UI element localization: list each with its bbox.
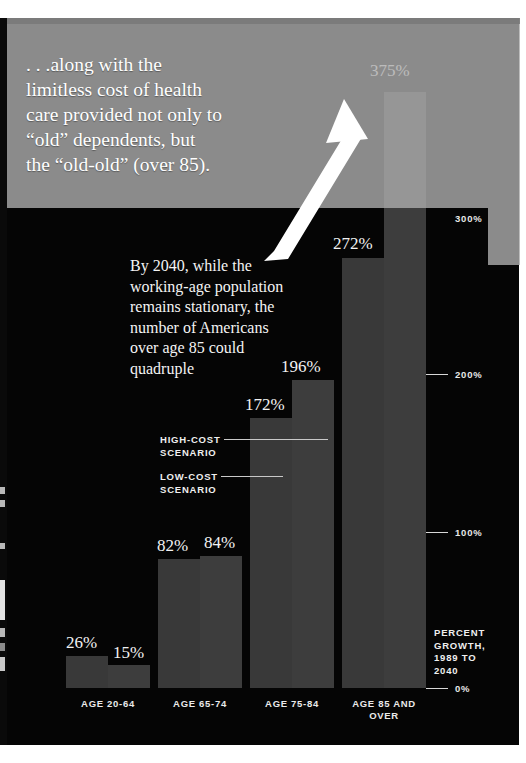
legend-low-cost-label: LOW-COST SCENARIO <box>160 471 218 496</box>
age-75-84-high <box>292 380 334 688</box>
axis-tick-0-line <box>426 688 448 689</box>
value-84: 84% <box>204 534 235 551</box>
overlay-top-band <box>7 18 520 24</box>
age-20-64-high <box>108 665 150 688</box>
legend-low-cost-leader <box>221 476 283 477</box>
cat-age-85-over: AGE 85 AND OVER <box>334 698 434 722</box>
chart-annotation: By 2040, while the working-age populatio… <box>130 256 345 379</box>
axis-tick-100: 100% <box>455 527 483 538</box>
value-15: 15% <box>113 644 144 661</box>
age-65-74-high <box>200 556 242 688</box>
chart-screenshot: 26%15%82%84%172%196%272%375% AGE 20-64AG… <box>0 0 526 763</box>
value-82: 82% <box>157 537 188 554</box>
pointer-arrow <box>250 85 370 265</box>
age-75-84-low <box>250 418 292 688</box>
caption-overlay-right-extension <box>488 18 520 265</box>
legend-high-cost-label: HIGH-COST SCENARIO <box>160 434 221 459</box>
axis-caption: PERCENT GROWTH, 1989 TO 2040 <box>434 627 514 677</box>
axis-tick-100-line <box>426 532 448 533</box>
cat-age-65-74: AGE 65-74 <box>150 698 250 710</box>
axis-tick-300: 300% <box>455 213 483 224</box>
axis-tick-200: 200% <box>455 369 483 380</box>
cat-age-75-84: AGE 75-84 <box>242 698 342 710</box>
legend-high-cost-leader <box>224 439 328 440</box>
age-20-64-low <box>66 656 108 688</box>
value-172: 172% <box>245 396 285 413</box>
axis-tick-0: 0% <box>455 683 470 694</box>
axis-tick-200-line <box>426 374 448 375</box>
age-65-74-low <box>158 559 200 688</box>
value-26: 26% <box>66 634 97 651</box>
cat-age-20-64: AGE 20-64 <box>58 698 158 710</box>
age-85-over-low <box>342 258 384 688</box>
